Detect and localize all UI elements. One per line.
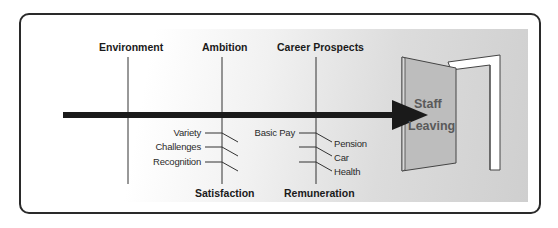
spine-arrow [63,100,428,130]
category-remuneration: Remuneration [284,187,355,199]
category-career-prospects: Career Prospects [277,41,364,53]
cause-basic-pay: Basic Pay [255,127,295,138]
category-satisfaction: Satisfaction [195,187,255,199]
category-environment: Environment [99,41,163,53]
cause-health: Health [334,166,360,177]
cause-recognition: Recognition [153,156,201,167]
fishbone-graphic [0,0,558,228]
cause-variety: Variety [174,127,201,138]
effect-label-line1: Staff [414,97,442,111]
cause-challenges: Challenges [155,141,201,152]
cause-car: Car [334,152,349,163]
category-ambition: Ambition [202,41,248,53]
effect-label-line2: Leaving [408,119,455,133]
cause-pension: Pension [334,138,367,149]
